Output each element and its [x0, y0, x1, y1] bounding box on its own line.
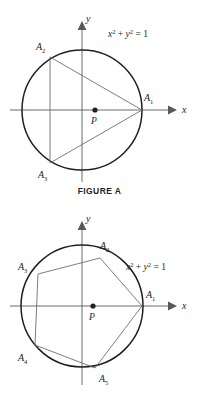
vertex-label-a4: A4 — [17, 352, 28, 365]
y-axis-label: y — [85, 213, 91, 224]
x-axis-label: x — [181, 300, 187, 311]
point-p-dot — [92, 107, 97, 112]
circle-equation: x2 + y2 = 1 — [107, 28, 148, 39]
figure-b-diagram: x y x2 + y2 = 1 A1 A2 A3 A4 A5 P — [0, 200, 199, 396]
point-p-dot — [90, 303, 95, 308]
x-axis-label: x — [181, 104, 187, 115]
vertex-label-a3: A3 — [17, 261, 27, 274]
vertex-label-a5: A5 — [98, 373, 108, 386]
figure-a-container: x y x2 + y2 = 1 A2 A3 A1 P FIGURE A — [0, 0, 199, 200]
x-axis-arrow-icon — [168, 302, 177, 311]
vertex-label-a3: A3 — [37, 169, 47, 182]
y-axis-label: y — [85, 13, 91, 24]
figure-b-container: x y x2 + y2 = 1 A1 A2 A3 A4 A5 P — [0, 200, 199, 396]
vertex-label-a1: A1 — [143, 92, 153, 105]
vertex-label-a2: A2 — [35, 41, 45, 54]
point-p-label: P — [88, 312, 95, 322]
x-axis-arrow-icon — [168, 106, 177, 115]
vertex-label-a1: A1 — [145, 289, 155, 302]
vertex-label-a2: A2 — [99, 240, 109, 253]
figure-a-caption: FIGURE A — [0, 186, 199, 196]
figure-a-diagram: x y x2 + y2 = 1 A2 A3 A1 P — [0, 0, 199, 186]
point-p-label: P — [90, 116, 97, 126]
